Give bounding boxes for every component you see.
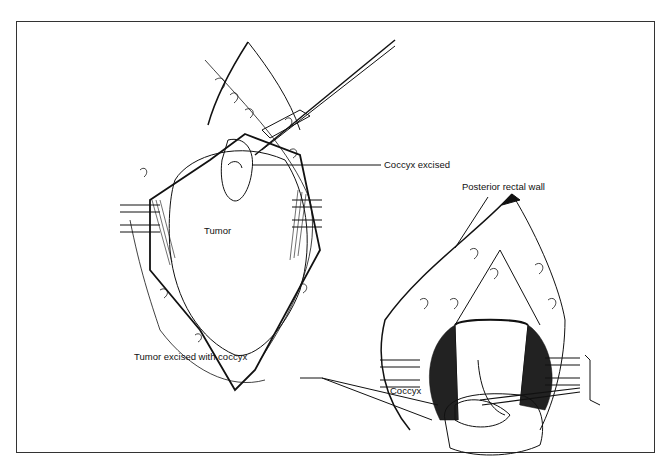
label-coccyx-excised: Coccyx excised [384,159,450,170]
right-panel-drawing [380,194,600,455]
label-posterior-rectal-wall: Posterior rectal wall [462,181,545,192]
label-coccyx: Coccyx [390,385,421,396]
left-panel-drawing [120,40,395,390]
surgical-illustration [0,0,672,472]
label-tumor-excised-with-coccyx: Tumor excised with coccyx [134,351,247,362]
label-tumor: Tumor [204,225,231,236]
